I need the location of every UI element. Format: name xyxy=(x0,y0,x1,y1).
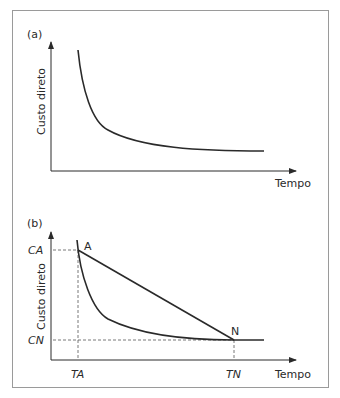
x-label-b: Tempo xyxy=(274,368,311,381)
panel-b-label: (b) xyxy=(27,217,43,230)
line-a-n xyxy=(78,250,234,340)
panel-a-label: (a) xyxy=(27,28,42,41)
panel-a: (a) Custo direto Tempo xyxy=(27,28,311,190)
y-label-b: Custo direto xyxy=(35,263,48,330)
panel-b: (b) A N CA CN TA TN Custo direto Tempo xyxy=(27,217,311,381)
ytick-cn: CN xyxy=(28,334,44,347)
point-a-label: A xyxy=(84,240,92,253)
xtick-tn: TN xyxy=(226,368,241,381)
ytick-ca: CA xyxy=(28,244,43,257)
figure-canvas: (a) Custo direto Tempo (b) A N CA CN TA … xyxy=(0,0,340,398)
cost-curve-a xyxy=(78,50,264,151)
y-label-a: Custo direto xyxy=(35,68,48,135)
x-label-a: Tempo xyxy=(274,177,311,190)
xtick-ta: TA xyxy=(71,368,84,381)
point-n-label: N xyxy=(231,325,239,338)
